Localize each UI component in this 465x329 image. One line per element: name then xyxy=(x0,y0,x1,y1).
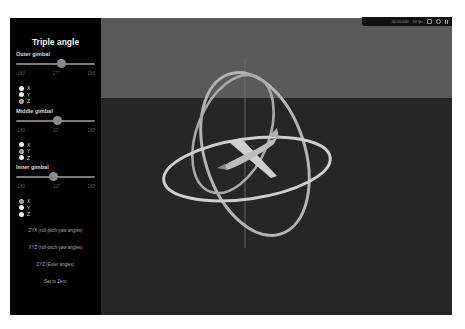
inner-gimbal-label: Inner gimbal xyxy=(16,164,95,170)
radio-button[interactable] xyxy=(19,92,24,97)
radio-button-checked[interactable] xyxy=(19,99,24,104)
time-display: 00:00.000 xyxy=(392,20,409,24)
radio-button-checked[interactable] xyxy=(19,199,24,204)
zyx-roll-pitch-yaw-button[interactable]: ZYX (roll-pitch-yaw angles) xyxy=(16,228,95,234)
panel-title: Triple angle xyxy=(16,37,95,47)
slider-max: 180 xyxy=(87,71,95,76)
slider-thumb[interactable] xyxy=(53,116,62,125)
slider-min: -180 xyxy=(16,184,25,189)
set-to-zero-button[interactable]: Set to Zero xyxy=(16,279,95,285)
xyz-roll-pitch-yaw-button[interactable]: XYZ (roll-pitch-yaw angles) xyxy=(16,245,95,251)
radio-z[interactable]: Z xyxy=(19,98,95,105)
radio-label: Y xyxy=(27,148,30,154)
inner-gimbal-axis-group: X Y Z xyxy=(19,198,95,218)
fps-display: 60 fps xyxy=(413,20,423,24)
radio-label: Y xyxy=(27,205,30,211)
inner-gimbal-slider[interactable] xyxy=(16,172,95,181)
outer-gimbal-axis-group: X Y Z xyxy=(19,85,95,105)
outer-gimbal-slider[interactable] xyxy=(16,59,95,68)
radio-label: Z xyxy=(27,155,30,161)
radio-label: X xyxy=(27,85,30,91)
outer-gimbal-label: Outer gimbal xyxy=(16,51,95,57)
radio-label: Z xyxy=(27,98,30,104)
gimbal-scene xyxy=(101,18,452,315)
slider-thumb[interactable] xyxy=(49,172,58,181)
radio-button[interactable] xyxy=(19,86,24,91)
outer-gimbal-section: Outer gimbal -180 27° 180 X Y Z xyxy=(16,51,95,105)
pause-icon[interactable] xyxy=(445,20,448,24)
slider-value: 10° xyxy=(53,128,60,133)
radio-label: Z xyxy=(27,211,30,217)
slider-value: 27° xyxy=(53,71,60,76)
radio-z[interactable]: Z xyxy=(19,155,95,162)
slider-value: -10° xyxy=(52,184,60,189)
outer-gimbal-ticks: -180 27° 180 xyxy=(16,71,95,76)
radio-button-checked[interactable] xyxy=(19,149,24,154)
preset-buttons: ZYX (roll-pitch-yaw angles) XYZ (roll-pi… xyxy=(16,228,95,285)
middle-gimbal-axis-group: X Y Z xyxy=(19,142,95,162)
control-panel: Triple angle Outer gimbal -180 27° 180 X… xyxy=(10,18,101,315)
zyz-euler-button[interactable]: ZYZ (Euler angles) xyxy=(16,262,95,268)
inner-gimbal-ticks: -180 -10° 180 xyxy=(16,184,95,189)
radio-z[interactable]: Z xyxy=(19,211,95,218)
slider-min: -180 xyxy=(16,71,25,76)
slider-min: -180 xyxy=(16,128,25,133)
3d-viewport[interactable] xyxy=(101,18,452,315)
middle-gimbal-section: Middle gimbal -180 10° 180 X Y Z xyxy=(16,108,95,162)
middle-gimbal-ticks: -180 10° 180 xyxy=(16,128,95,133)
clock-icon[interactable] xyxy=(436,19,441,24)
slider-track xyxy=(16,63,95,65)
slider-max: 180 xyxy=(87,184,95,189)
radio-button[interactable] xyxy=(19,142,24,147)
radio-label: X xyxy=(27,198,30,204)
radio-button[interactable] xyxy=(19,155,24,160)
airplane-model xyxy=(217,128,279,178)
inner-gimbal-section: Inner gimbal -180 -10° 180 X Y Z xyxy=(16,164,95,218)
middle-gimbal-slider[interactable] xyxy=(16,116,95,125)
radio-label: X xyxy=(27,142,30,148)
slider-thumb[interactable] xyxy=(57,59,66,68)
middle-gimbal-label: Middle gimbal xyxy=(16,108,95,114)
render-toolbar: 00:00.000 60 fps xyxy=(362,17,452,26)
radio-button[interactable] xyxy=(19,205,24,210)
screenshot-icon[interactable] xyxy=(427,19,432,24)
slider-max: 180 xyxy=(87,128,95,133)
radio-label: Y xyxy=(27,92,30,98)
radio-button[interactable] xyxy=(19,212,24,217)
